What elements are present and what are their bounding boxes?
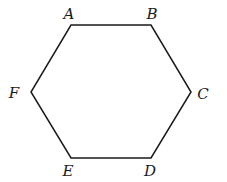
vertex-label-b: B: [145, 5, 157, 23]
vertex-label-f: F: [8, 84, 20, 102]
vertex-label-a: A: [62, 5, 75, 23]
hexagon-shape: [31, 25, 191, 158]
vertex-label-e: E: [62, 162, 74, 180]
vertex-label-c: C: [197, 85, 209, 103]
vertex-label-d: D: [143, 162, 156, 180]
hexagon-diagram: A B C D E F: [0, 0, 227, 182]
